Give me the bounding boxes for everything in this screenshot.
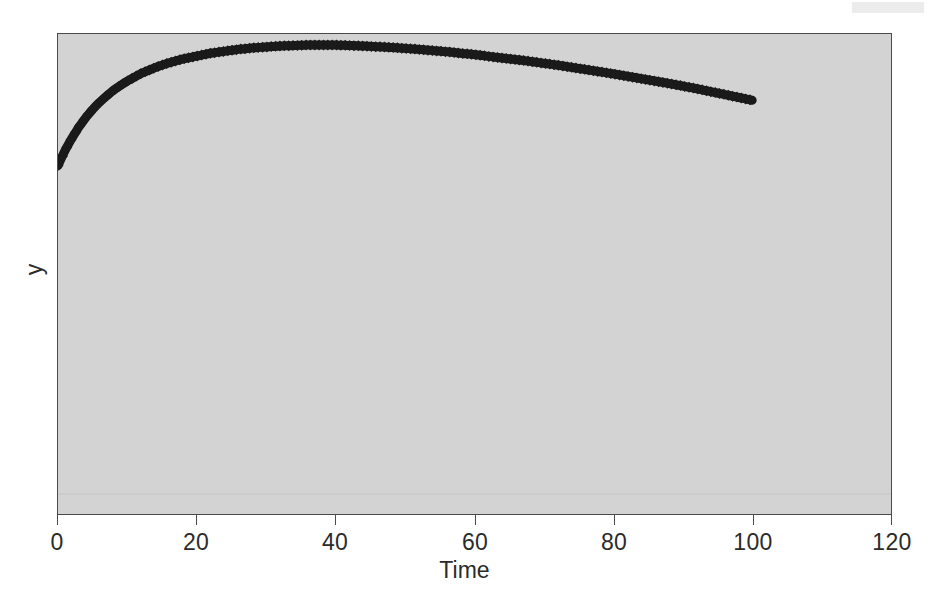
x-axis-tick-mark (57, 515, 58, 525)
x-axis-tick-label: 80 (601, 531, 627, 554)
x-axis-tick-mark (475, 515, 476, 525)
figure-canvas: 020406080100120 Time y (0, 0, 929, 606)
plot-inner (58, 34, 891, 514)
x-axis-title: Time (0, 559, 929, 582)
x-axis-tick-label: 20 (183, 531, 209, 554)
x-axis-tick-mark (335, 515, 336, 525)
x-axis-tick-label: 100 (733, 531, 772, 554)
top-right-band-decoration (852, 2, 924, 13)
x-axis-tick-label: 60 (462, 531, 488, 554)
x-axis-tick-mark (614, 515, 615, 525)
x-axis-tick-mark (196, 515, 197, 525)
x-axis-tick-label: 0 (50, 531, 63, 554)
x-axis-tick-label: 120 (872, 531, 911, 554)
x-axis-tick-label: 40 (322, 531, 348, 554)
plot-area (57, 33, 892, 515)
y-axis-title: y (23, 230, 46, 310)
x-axis-tick-mark (891, 515, 892, 525)
x-axis-tick-mark (753, 515, 754, 525)
series-line-y (58, 34, 891, 514)
